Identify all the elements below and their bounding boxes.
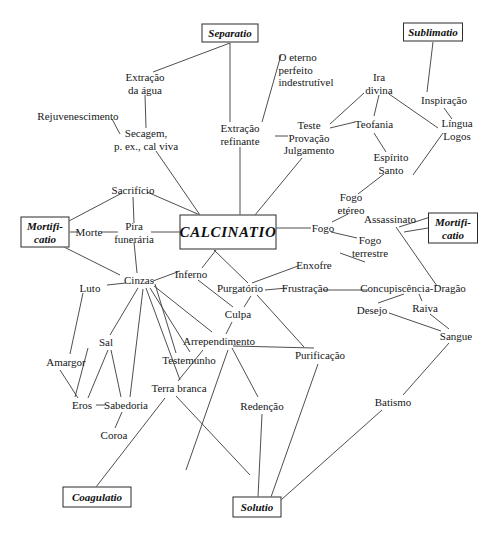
- concept-node-amargor[interactable]: Amargor: [46, 356, 86, 369]
- edge-line: [281, 410, 382, 500]
- concept-node-teste[interactable]: Teste Provação Julgamento: [284, 119, 335, 157]
- edge-line: [202, 250, 216, 268]
- concept-node-coroa[interactable]: Coroa: [101, 429, 128, 442]
- concept-node-arrependimento[interactable]: Arrependimento: [183, 335, 255, 348]
- operation-box-solutio[interactable]: Solutio: [233, 497, 282, 518]
- operation-box-calcinatio[interactable]: CALCINATIO: [180, 215, 277, 250]
- operation-box-sublimatio[interactable]: Sublimatio: [403, 23, 463, 42]
- operation-box-mortificatio_r[interactable]: Mortifi- catio: [428, 213, 478, 244]
- concept-node-culpa[interactable]: Culpa: [225, 308, 251, 321]
- edge-line: [252, 266, 298, 283]
- concept-node-purificacao[interactable]: Purificação: [295, 349, 345, 362]
- concept-node-eros[interactable]: Eros: [72, 399, 92, 412]
- edge-line: [427, 42, 433, 92]
- edge-line: [232, 348, 258, 397]
- concept-node-pira[interactable]: Pira funerária: [114, 220, 154, 245]
- operation-box-coagulatio[interactable]: Coagulatio: [63, 487, 132, 508]
- edge-line: [155, 284, 176, 353]
- edge-line: [110, 288, 138, 335]
- edge-line: [96, 398, 165, 487]
- edge-line: [115, 412, 122, 428]
- concept-node-fogo_etereo[interactable]: Fogo etéreo: [338, 191, 365, 216]
- concept-node-testemunho[interactable]: Testemunho: [162, 354, 216, 367]
- edge-line: [88, 350, 108, 398]
- concept-node-frustracao[interactable]: Frustração: [282, 282, 328, 295]
- edge-line: [374, 133, 386, 152]
- concept-node-sal[interactable]: Sal: [99, 336, 113, 349]
- edge-line: [271, 364, 318, 497]
- edge-line: [70, 293, 83, 354]
- edge-line: [214, 250, 248, 283]
- concept-node-inspiracao[interactable]: Inspiração: [421, 94, 467, 107]
- concept-node-concupiscencia[interactable]: Concupiscência-Dragão: [360, 282, 466, 295]
- concept-node-cinzas[interactable]: Cinzas: [124, 274, 154, 287]
- concept-map-diagram: Extração da águaRejuvenescimentoSecagem,…: [0, 0, 490, 533]
- edge-line: [226, 322, 232, 334]
- concept-node-rejuvenescimento[interactable]: Rejuvenescimento: [37, 110, 118, 123]
- edge-line: [413, 133, 443, 175]
- concept-node-batismo[interactable]: Batismo: [375, 396, 412, 409]
- edge-line: [145, 95, 146, 128]
- concept-node-raiva[interactable]: Raiva: [412, 302, 438, 315]
- concept-node-extracao_agua[interactable]: Extração da água: [125, 71, 164, 96]
- concept-node-sabedoria[interactable]: Sabedoria: [104, 399, 148, 412]
- concept-node-terra_branca[interactable]: Terra branca: [151, 382, 206, 395]
- edge-layer: [0, 0, 490, 533]
- concept-node-desejo[interactable]: Desejo: [357, 304, 388, 317]
- edge-line: [134, 242, 137, 273]
- concept-node-secagem[interactable]: Secagem, p. ex., cal viva: [114, 127, 178, 152]
- operation-box-mortificatio_l[interactable]: Mortifi- catio: [21, 217, 70, 248]
- operation-box-separatio[interactable]: Separatio: [202, 24, 259, 43]
- concept-node-ira_divina[interactable]: Ira divina: [365, 71, 393, 96]
- edge-line: [186, 350, 228, 470]
- concept-node-enxofre[interactable]: Enxofre: [296, 259, 331, 272]
- concept-node-inferno[interactable]: Inferno: [175, 268, 207, 281]
- edge-line: [69, 193, 122, 221]
- concept-node-extracao_refinante[interactable]: Extração refinante: [220, 122, 259, 147]
- edge-line: [255, 158, 302, 215]
- edge-line: [403, 343, 449, 395]
- edge-line: [378, 294, 404, 303]
- concept-node-fogo_terrestre[interactable]: Fogo terrestre: [352, 234, 388, 259]
- concept-node-lingua_logos[interactable]: Língua Logos: [441, 117, 472, 142]
- concept-node-purgatorio[interactable]: Purgatório: [217, 282, 263, 295]
- edge-line: [153, 43, 230, 72]
- edge-line: [374, 95, 379, 116]
- concept-node-espirito_santo[interactable]: Espírito Santo: [374, 151, 409, 176]
- edge-line: [430, 314, 449, 329]
- edge-line: [257, 295, 304, 347]
- concept-node-fogo[interactable]: Fogo: [312, 222, 335, 235]
- edge-line: [60, 370, 78, 398]
- edge-line: [60, 245, 120, 275]
- edge-line: [389, 313, 441, 331]
- concept-node-sacrificio[interactable]: Sacrifício: [112, 184, 155, 197]
- edge-line: [176, 396, 250, 475]
- edge-line: [419, 294, 422, 301]
- edge-line: [258, 414, 262, 497]
- edge-line: [244, 296, 251, 307]
- edge-line: [404, 228, 428, 232]
- concept-node-eterno[interactable]: O eterno perfeito indestrutível: [279, 51, 334, 89]
- concept-node-teofania[interactable]: Teofania: [355, 118, 393, 131]
- concept-node-redencao[interactable]: Redenção: [240, 400, 283, 413]
- concept-node-morte[interactable]: Morte: [76, 226, 103, 239]
- edge-line: [130, 289, 143, 397]
- concept-node-assassinato[interactable]: Assassinato: [364, 213, 416, 226]
- concept-node-luto[interactable]: Luto: [80, 282, 101, 295]
- edge-line: [111, 350, 121, 397]
- concept-node-sangue[interactable]: Sangue: [440, 330, 472, 343]
